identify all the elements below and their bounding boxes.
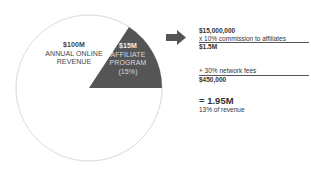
affiliate-amount: $15M [104,42,152,51]
pie-chart [0,0,311,173]
fees-line: + 30% network fees [199,67,309,76]
affiliate-percent: (15%) [104,68,152,77]
total-amount: = 1.95M [199,96,245,106]
fees-calc: + 30% network fees $450,000 [199,67,309,83]
revenue-line2: REVENUE [34,58,114,67]
total-note: 13% of revenue [199,106,245,114]
base-amount: $15,000,000 [199,27,309,35]
fees-result: $450,000 [199,76,309,84]
revenue-line1: ANNUAL ONLINE [34,50,114,59]
commission-calc: $15,000,000 x 10% commission to affiliat… [199,27,309,51]
affiliate-line1: AFFILIATE [104,51,152,60]
affiliate-line2: PROGRAM [104,59,152,68]
commission-line: x 10% commission to affiliates [199,35,309,44]
commission-result: $1.5M [199,43,309,51]
revenue-amount: $100M [34,41,114,50]
revenue-label: $100M ANNUAL ONLINE REVENUE [34,41,114,67]
affiliate-label: $15M AFFILIATE PROGRAM (15%) [104,42,152,76]
total-calc: = 1.95M 13% of revenue [199,96,245,114]
arrow-right-icon [166,30,188,45]
